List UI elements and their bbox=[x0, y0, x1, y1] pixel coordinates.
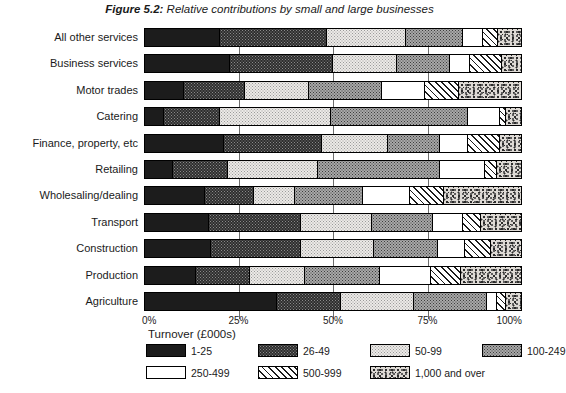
bar-segment-100-249 bbox=[397, 55, 450, 72]
bar-segment-26-49 bbox=[173, 161, 228, 178]
bar-segment-26-49 bbox=[211, 240, 301, 257]
bar-segment-100-249 bbox=[372, 214, 432, 231]
bar-row bbox=[144, 213, 522, 232]
bar-segment-250-499 bbox=[440, 135, 468, 152]
bar-segment-50-99 bbox=[301, 214, 372, 231]
bar-segment-250-499 bbox=[450, 55, 471, 72]
bar-row bbox=[144, 186, 522, 205]
category-label: Agriculture bbox=[0, 292, 138, 311]
bar-segment-26-49 bbox=[209, 214, 301, 231]
bar-segment-500-999 bbox=[465, 240, 491, 257]
bar-segment-1-25 bbox=[145, 267, 196, 284]
bar-row bbox=[144, 160, 522, 179]
bar-segment-100-249 bbox=[374, 240, 438, 257]
bar-row bbox=[144, 54, 522, 73]
bar-segment-100-249 bbox=[331, 108, 468, 125]
bar-segment-500-999 bbox=[431, 267, 461, 284]
bar-segment-500-999 bbox=[497, 293, 506, 310]
bar-segment-50-99 bbox=[245, 82, 309, 99]
bar-segment-250-499 bbox=[440, 161, 485, 178]
bar-segment-100-249 bbox=[318, 161, 440, 178]
legend-swatch-white bbox=[146, 366, 186, 379]
legend-swatch-speckled bbox=[370, 366, 410, 379]
bar-segment-1-25 bbox=[145, 29, 220, 46]
bar-segment-1-25 bbox=[145, 55, 230, 72]
figure-number: Figure 5.2: bbox=[105, 3, 163, 15]
bar-segment-250-499 bbox=[433, 214, 463, 231]
legend-item: 1,000 and over bbox=[370, 366, 485, 379]
legend-item: 100-249 bbox=[482, 344, 566, 357]
bar-segment-500-999 bbox=[470, 55, 502, 72]
legend-label: 1,000 and over bbox=[415, 367, 485, 379]
category-label: Business services bbox=[0, 54, 138, 73]
chart-plot-area bbox=[144, 28, 522, 311]
x-tick-0%: 0% bbox=[142, 315, 156, 326]
bar-segment-250-499 bbox=[487, 293, 496, 310]
bar-segment-50-99 bbox=[327, 29, 406, 46]
bar-segment-1-25 bbox=[145, 240, 211, 257]
category-label: Wholesaling/dealing bbox=[0, 186, 138, 205]
bar-segment-50-99 bbox=[250, 267, 305, 284]
bar-segment-50-99 bbox=[254, 187, 295, 204]
category-label: Construction bbox=[0, 239, 138, 258]
bar-segment-250-499 bbox=[382, 82, 425, 99]
bar-segment-26-49 bbox=[184, 82, 244, 99]
x-tick-50%: 50% bbox=[323, 315, 343, 326]
bar-segment-1-000-and-over bbox=[491, 240, 521, 257]
bar-segment-100-249 bbox=[388, 135, 441, 152]
category-label: Finance, property, etc bbox=[0, 134, 138, 153]
bar-row bbox=[144, 107, 522, 126]
legend-item: 1-25 bbox=[146, 344, 212, 357]
bar-segment-500-999 bbox=[410, 187, 444, 204]
bar-segment-50-99 bbox=[322, 135, 388, 152]
bar-segment-26-49 bbox=[277, 293, 341, 310]
bar-segment-1-000-and-over bbox=[500, 135, 521, 152]
category-label: Production bbox=[0, 266, 138, 285]
bar-segment-50-99 bbox=[341, 293, 414, 310]
x-tick-100%: 100% bbox=[496, 315, 522, 326]
bar-segment-1-000-and-over bbox=[481, 214, 520, 231]
legend-swatch-light-dotted bbox=[370, 344, 410, 357]
bar-segment-1-000-and-over bbox=[506, 293, 521, 310]
bar-segment-100-249 bbox=[309, 82, 382, 99]
bar-segment-1-25 bbox=[145, 187, 205, 204]
category-label: Transport bbox=[0, 213, 138, 232]
bar-segment-26-49 bbox=[164, 108, 220, 125]
legend-swatch-dark-dotted bbox=[258, 344, 298, 357]
bar-segment-50-99 bbox=[220, 108, 331, 125]
bar-segment-100-249 bbox=[305, 267, 380, 284]
x-axis-title: Turnover (£000s) bbox=[148, 328, 236, 340]
figure-title: Figure 5.2: Relative contributions by sm… bbox=[0, 3, 539, 15]
legend-swatch-diagonal-hatch bbox=[258, 366, 298, 379]
bar-segment-50-99 bbox=[228, 161, 318, 178]
bar-segment-500-999 bbox=[485, 161, 496, 178]
bar-segment-100-249 bbox=[406, 29, 462, 46]
bar-segment-1-000-and-over bbox=[444, 187, 521, 204]
category-label: All other services bbox=[0, 28, 138, 47]
bar-segment-500-999 bbox=[483, 29, 498, 46]
bar-row bbox=[144, 292, 522, 311]
bar-segment-1-000-and-over bbox=[459, 82, 521, 99]
bar-row bbox=[144, 239, 522, 258]
bar-segment-1-000-and-over bbox=[497, 161, 521, 178]
bar-segment-1-000-and-over bbox=[506, 108, 521, 125]
bar-segment-26-49 bbox=[220, 29, 327, 46]
legend-item: 500-999 bbox=[258, 366, 342, 379]
bar-segment-1-25 bbox=[145, 82, 184, 99]
category-label: Retailing bbox=[0, 160, 138, 179]
bar-segment-250-499 bbox=[438, 240, 464, 257]
bar-row bbox=[144, 266, 522, 285]
legend-label: 50-99 bbox=[415, 345, 442, 357]
bar-segment-1-000-and-over bbox=[498, 29, 521, 46]
bar-segment-1-000-and-over bbox=[461, 267, 521, 284]
bar-segment-26-49 bbox=[205, 187, 254, 204]
bar-segment-100-249 bbox=[414, 293, 487, 310]
legend-item: 50-99 bbox=[370, 344, 442, 357]
bar-segment-250-499 bbox=[468, 108, 500, 125]
bar-segment-250-499 bbox=[380, 267, 431, 284]
legend-label: 500-999 bbox=[303, 367, 342, 379]
legend-item: 26-49 bbox=[258, 344, 330, 357]
legend-swatch-grey-checker bbox=[482, 344, 522, 357]
legend-swatch-solid-black bbox=[146, 344, 186, 357]
bar-segment-250-499 bbox=[363, 187, 410, 204]
